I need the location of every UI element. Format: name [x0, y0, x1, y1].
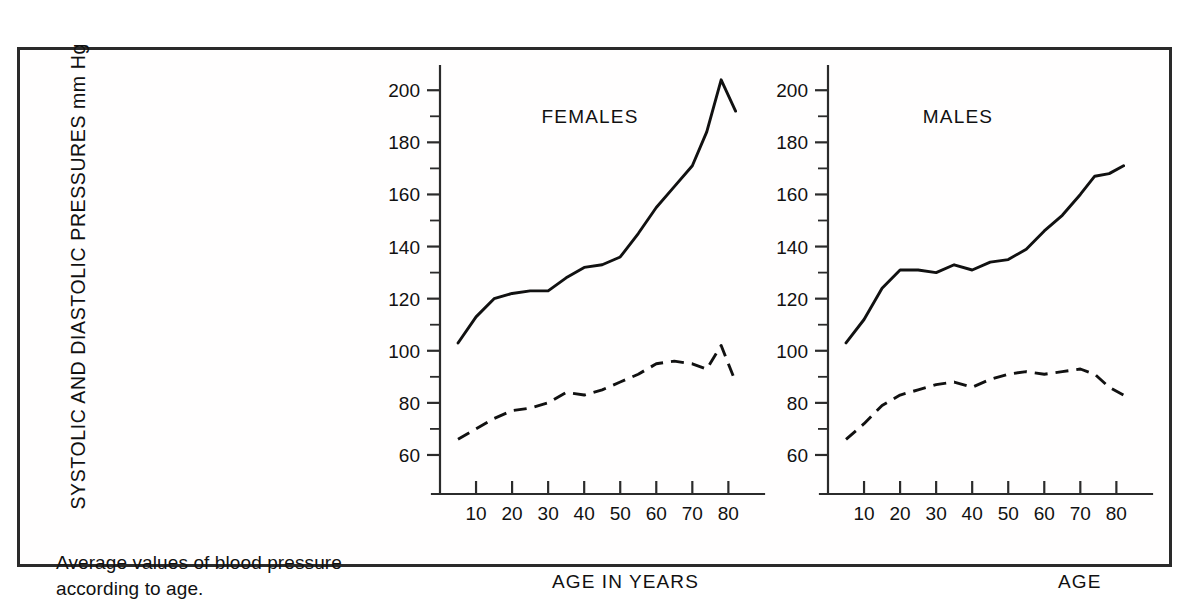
plot-area-males: 60801001201401601802001020304050607080 [738, 50, 1168, 520]
y-tick-label: 60 [399, 445, 420, 466]
y-tick-label: 120 [388, 289, 420, 310]
x-tick-label: 40 [962, 503, 983, 524]
y-tick-label: 140 [776, 237, 808, 258]
y-tick-label: 180 [388, 132, 420, 153]
x-tick-label: 70 [1070, 503, 1091, 524]
series-line-systolic [846, 166, 1124, 343]
x-tick-label: 80 [1106, 503, 1127, 524]
figure-caption: Average values of blood pressure accordi… [56, 550, 346, 601]
x-tick-label: 30 [538, 503, 559, 524]
x-tick-label: 30 [926, 503, 947, 524]
x-tick-label: 50 [998, 503, 1019, 524]
y-tick-label: 80 [787, 393, 808, 414]
y-tick-label: 200 [388, 80, 420, 101]
series-line-diastolic [458, 346, 736, 440]
x-tick-label: 70 [682, 503, 703, 524]
x-tick-label: 10 [465, 503, 486, 524]
x-tick-label: 60 [646, 503, 667, 524]
x-tick-label: 80 [718, 503, 739, 524]
plot-area-females: 60801001201401601802001020304050607080 [350, 50, 780, 520]
x-axis-label-males: AGE [1058, 571, 1101, 593]
y-tick-label: 60 [787, 445, 808, 466]
y-tick-label: 200 [776, 80, 808, 101]
y-tick-label: 140 [388, 237, 420, 258]
y-tick-label: 160 [776, 184, 808, 205]
x-tick-label: 10 [853, 503, 874, 524]
x-tick-label: 50 [610, 503, 631, 524]
figure-frame: Average values of blood pressure accordi… [17, 47, 1172, 567]
series-line-systolic [458, 80, 736, 343]
series-line-diastolic [846, 369, 1124, 439]
x-tick-label: 40 [574, 503, 595, 524]
y-tick-label: 120 [776, 289, 808, 310]
x-tick-label: 60 [1034, 503, 1055, 524]
y-tick-label: 100 [776, 341, 808, 362]
x-tick-label: 20 [890, 503, 911, 524]
y-tick-label: 80 [399, 393, 420, 414]
x-tick-label: 20 [502, 503, 523, 524]
y-tick-label: 100 [388, 341, 420, 362]
x-axis-label-females: AGE IN YEARS [552, 571, 699, 593]
y-tick-label: 180 [776, 132, 808, 153]
y-tick-label: 160 [388, 184, 420, 205]
y-axis-label: SYSTOLIC AND DIASTOLIC PRESSURES mm Hg [67, 90, 90, 510]
